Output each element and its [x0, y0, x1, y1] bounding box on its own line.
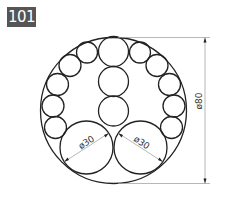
ring-circle-left-2 — [59, 55, 81, 77]
ring-circle-left-4 — [42, 95, 64, 117]
arrowhead-right-big-b — [158, 158, 163, 163]
center-circle-middle — [99, 67, 129, 97]
ring-circle-right-4 — [163, 95, 185, 117]
dimension-label-left-big: ø30 — [77, 134, 97, 152]
center-circle-bottom — [99, 96, 129, 126]
center-circle-top — [99, 37, 129, 67]
technical-drawing: ø80 ø30 ø30 — [0, 0, 227, 197]
ring-circle-left-5 — [45, 117, 67, 139]
dimension-label-right-big: ø30 — [132, 134, 152, 152]
ring-circle-left-3 — [47, 74, 69, 96]
arrowhead-right-big-a — [118, 133, 123, 138]
arrowhead-bottom — [204, 179, 207, 184]
dimension-label-overall: ø80 — [194, 92, 204, 109]
arrowhead-left-big-b — [104, 133, 109, 138]
ring-circle-right-3 — [159, 74, 181, 96]
ring-circle-right-5 — [161, 117, 183, 139]
arrowhead-left-big-a — [64, 158, 69, 163]
arrowhead-top — [204, 38, 207, 43]
ring-circle-right-2 — [146, 55, 168, 77]
